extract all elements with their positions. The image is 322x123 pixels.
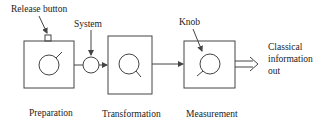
classical-output-double-arrow [235, 57, 258, 71]
system-circle-icon [83, 57, 99, 73]
transformation-device [108, 36, 152, 94]
transformation-box [108, 36, 152, 94]
preparation-box [24, 41, 74, 88]
release-button [45, 35, 51, 41]
quantum-experiment-diagram: Release button System Knob Classical i [0, 0, 322, 123]
measurement-device [184, 41, 235, 88]
output-label-line2: information [268, 54, 313, 64]
output-label-line3: out [268, 66, 281, 76]
release-button-label: Release button [11, 4, 67, 14]
preparation-device [24, 35, 74, 88]
measurement-box [184, 41, 235, 88]
preparation-knob-pointer [56, 52, 62, 58]
knob-label: Knob [179, 17, 200, 27]
stage-label-transformation: Transformation [102, 109, 161, 119]
transformation-knob-pointer [136, 71, 141, 77]
knob-pointer-arrow [193, 29, 202, 51]
measurement-knob-pointer [197, 71, 203, 76]
stage-label-measurement: Measurement [186, 109, 238, 119]
system-label: System [74, 19, 103, 29]
output-label-line1: Classical [268, 42, 303, 52]
release-button-pointer-arrow [39, 16, 47, 33]
stage-label-preparation: Preparation [29, 108, 73, 118]
